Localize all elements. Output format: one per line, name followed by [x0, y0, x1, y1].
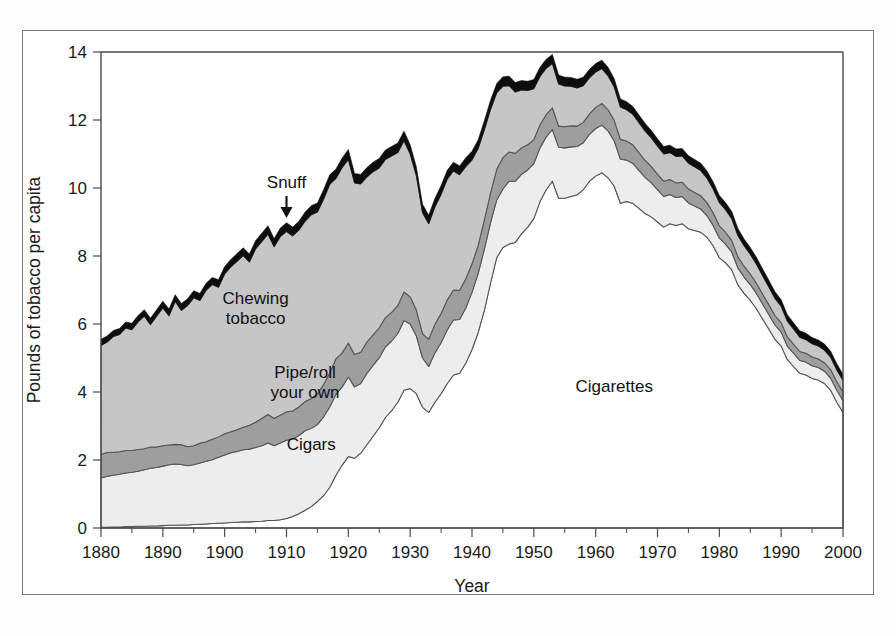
x-tick-label-1940: 1940	[453, 543, 491, 562]
y-tick-label-10: 10	[68, 179, 87, 198]
x-tick-label-1990: 1990	[762, 543, 800, 562]
x-tick-label-1950: 1950	[515, 543, 553, 562]
stacked-area-chart: 0246810121418801890190019101920193019401…	[0, 0, 896, 636]
series-label-pipe-roll-your-own: Pipe/rollyour own	[271, 363, 340, 402]
x-tick-label-1910: 1910	[268, 543, 306, 562]
y-axis-title: Pounds of tobacco per capita	[24, 176, 44, 403]
x-tick-label-1960: 1960	[577, 543, 615, 562]
x-tick-label-1970: 1970	[639, 543, 677, 562]
snuff-arrow-head	[281, 207, 293, 218]
x-tick-label-2000: 2000	[824, 543, 862, 562]
x-tick-label-1930: 1930	[391, 543, 429, 562]
y-tick-label-4: 4	[78, 383, 87, 402]
x-tick-label-1980: 1980	[700, 543, 738, 562]
y-tick-label-2: 2	[78, 451, 87, 470]
x-tick-label-1880: 1880	[82, 543, 120, 562]
series-label-cigars: Cigars	[287, 435, 336, 454]
area-bands-group	[101, 54, 843, 528]
y-tick-label-8: 8	[78, 247, 87, 266]
series-label-snuff: Snuff	[267, 173, 307, 192]
x-axis-title: Year	[454, 576, 490, 596]
y-tick-label-0: 0	[78, 519, 87, 538]
figure-container: 0246810121418801890190019101920193019401…	[0, 0, 896, 636]
series-label-chewing-tobacco: Chewingtobacco	[223, 289, 289, 328]
x-tick-label-1920: 1920	[329, 543, 367, 562]
y-tick-label-12: 12	[68, 111, 87, 130]
y-tick-label-14: 14	[68, 43, 87, 62]
x-tick-label-1890: 1890	[144, 543, 182, 562]
x-tick-label-1900: 1900	[206, 543, 244, 562]
y-tick-label-6: 6	[78, 315, 87, 334]
series-label-cigarettes: Cigarettes	[575, 377, 652, 396]
